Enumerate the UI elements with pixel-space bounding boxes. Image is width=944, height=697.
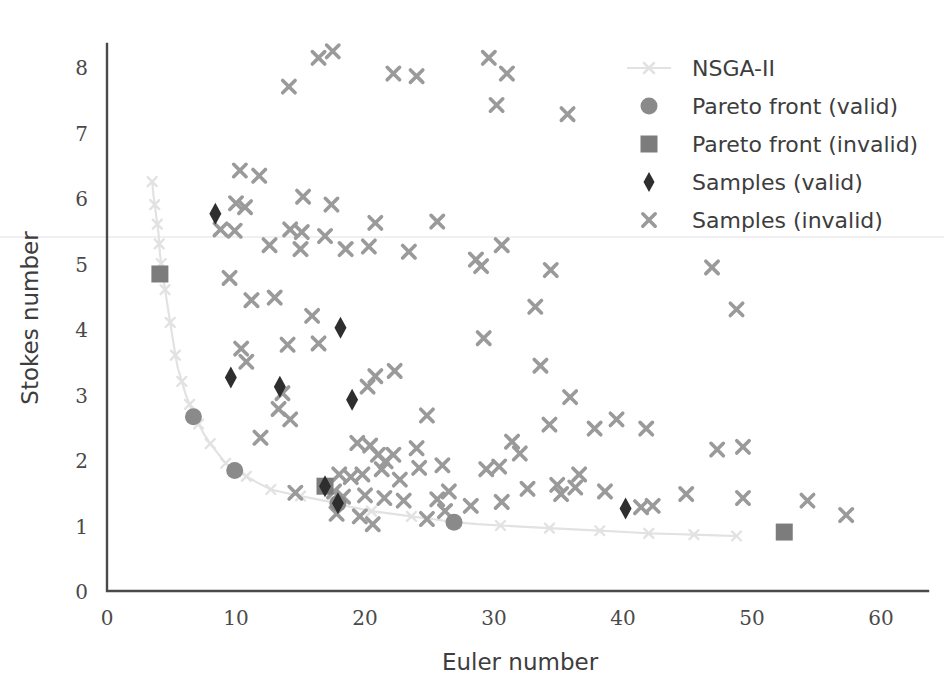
chart-legend: NSGA-IIPareto front (valid)Pareto front … [627, 56, 918, 233]
sample-valid-marker [346, 389, 358, 411]
sample-invalid-marker [506, 435, 518, 447]
axis-lines [107, 44, 928, 591]
sample-invalid-marker [588, 422, 600, 434]
sample-invalid-marker [496, 239, 508, 251]
sample-invalid-marker [387, 449, 399, 461]
sample-invalid-marker [356, 468, 368, 480]
sample-invalid-marker [354, 510, 366, 522]
sample-invalid-marker [388, 365, 400, 377]
x-tick-label: 60 [868, 606, 893, 630]
sample-invalid-marker [477, 332, 489, 344]
legend-entry-4[interactable]: Samples (valid) [644, 170, 863, 195]
sample-invalid-marker [646, 500, 658, 512]
legend-entry-1[interactable]: NSGA-II [627, 56, 775, 81]
sample-invalid-marker [403, 246, 415, 258]
pareto-valid-marker [226, 462, 243, 479]
sample-invalid-marker [465, 500, 477, 512]
sample-invalid-marker [640, 422, 652, 434]
legend-label: Pareto front (valid) [692, 94, 898, 119]
sample-invalid-marker [253, 170, 265, 182]
sample-valid-marker [620, 497, 632, 519]
sample-invalid-marker [254, 432, 266, 444]
sample-invalid-marker [363, 240, 375, 252]
sample-invalid-marker [730, 303, 742, 315]
sample-invalid-marker [599, 485, 611, 497]
x-tick-label: 20 [352, 606, 377, 630]
sample-invalid-marker [269, 291, 281, 303]
sample-invalid-marker [240, 356, 252, 368]
sample-invalid-marker [284, 413, 296, 425]
x-tick-label: 10 [223, 606, 248, 630]
y-tick-label: 7 [75, 122, 88, 146]
sample-invalid-marker [283, 80, 295, 92]
legend-entry-3[interactable]: Pareto front (invalid) [641, 132, 919, 157]
pareto-valid-marker [446, 514, 463, 531]
sample-invalid-marker [493, 460, 505, 472]
legend-label: Pareto front (invalid) [692, 132, 918, 157]
sample-invalid-marker [643, 214, 655, 226]
sample-invalid-marker [378, 492, 390, 504]
sample-valid-marker [209, 203, 221, 225]
sample-invalid-marker [514, 447, 526, 459]
series-pareto-invalid [151, 265, 792, 540]
pareto-invalid-marker [776, 524, 793, 541]
x-axis-tick-labels: 0102030405060 [101, 606, 894, 630]
y-tick-label: 1 [75, 515, 88, 539]
sample-invalid-marker [367, 518, 379, 530]
plot-data-layers [148, 45, 853, 540]
sample-invalid-marker [496, 496, 508, 508]
sample-invalid-marker [410, 442, 422, 454]
sample-invalid-marker [706, 261, 718, 273]
x-tick-label: 40 [610, 606, 635, 630]
x-axis-title: Euler number [442, 649, 599, 675]
sample-invalid-marker [534, 359, 546, 371]
sample-invalid-marker [223, 272, 235, 284]
sample-invalid-marker [312, 52, 324, 64]
sample-invalid-marker [297, 190, 309, 202]
pareto-invalid-marker [151, 265, 168, 282]
sample-invalid-marker [339, 243, 351, 255]
sample-valid-marker [225, 366, 237, 388]
sample-invalid-marker [573, 468, 585, 480]
sample-invalid-marker [431, 215, 443, 227]
pareto-valid-marker [185, 408, 202, 425]
sample-invalid-marker [387, 67, 399, 79]
sample-invalid-marker [234, 164, 246, 176]
sample-invalid-marker [680, 488, 692, 500]
sample-invalid-marker [398, 494, 410, 506]
sample-invalid-marker [480, 463, 492, 475]
sample-invalid-marker [443, 485, 455, 497]
legend-entry-5[interactable]: Samples (invalid) [643, 208, 883, 233]
sample-invalid-marker [206, 439, 215, 448]
sample-invalid-marker [229, 225, 241, 237]
y-tick-label: 2 [75, 449, 88, 473]
sample-invalid-marker [294, 243, 306, 255]
chart-svg: 012345678 0102030405060 Stokes number Eu… [0, 0, 944, 697]
legend-label: NSGA-II [692, 56, 775, 81]
sample-invalid-marker [521, 483, 533, 495]
sample-invalid-marker [431, 493, 443, 505]
sample-invalid-marker [351, 437, 363, 449]
sample-invalid-marker [561, 108, 573, 120]
sample-invalid-marker [501, 67, 513, 79]
x-tick-label: 0 [101, 606, 114, 630]
x-tick-label: 50 [739, 606, 764, 630]
sample-invalid-marker [306, 310, 318, 322]
y-tick-label: 4 [75, 318, 88, 342]
sample-invalid-marker [289, 487, 301, 499]
y-tick-label: 0 [75, 580, 88, 604]
sample-invalid-marker [369, 217, 381, 229]
sample-invalid-marker [185, 400, 194, 409]
x-tick-label: 30 [481, 606, 506, 630]
legend-label: Samples (invalid) [692, 208, 883, 233]
sample-invalid-marker [801, 494, 813, 506]
scatter-chart-figure: 012345678 0102030405060 Stokes number Eu… [0, 0, 944, 697]
pareto-valid-marker [641, 98, 658, 115]
y-axis-tick-labels: 012345678 [75, 56, 88, 604]
sample-invalid-marker [263, 239, 275, 251]
legend-entry-2[interactable]: Pareto front (valid) [641, 94, 899, 119]
sample-valid-marker [644, 172, 655, 192]
sample-invalid-marker [325, 198, 337, 210]
sample-invalid-marker [312, 337, 324, 349]
sample-invalid-marker [296, 226, 308, 238]
